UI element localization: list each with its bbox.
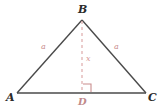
side-label-right-leg: a: [114, 43, 119, 51]
altitude-label-x: x: [86, 55, 91, 63]
vertex-label-c: C: [148, 92, 157, 103]
vertex-label-d: D: [78, 97, 87, 107]
side-label-left-leg: a: [41, 43, 46, 51]
right-angle-icon: [83, 84, 91, 92]
triangle-svg: [0, 0, 161, 111]
vertex-label-a: A: [6, 92, 15, 103]
geometry-diagram: A B C a a x D: [0, 0, 161, 111]
vertex-label-b: B: [78, 4, 87, 15]
left-leg-AB: [17, 20, 82, 93]
right-leg-BC: [82, 20, 146, 93]
